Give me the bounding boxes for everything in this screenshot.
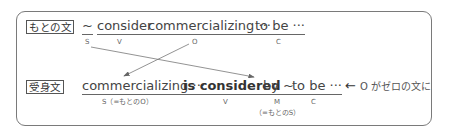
label-v: V bbox=[117, 38, 122, 46]
passive-sentence-tag: 受身文 bbox=[26, 80, 64, 94]
passive-word-by: by ~ bbox=[263, 78, 294, 95]
word-complement: to be ··· bbox=[255, 18, 305, 35]
o-to-s-arrow bbox=[124, 44, 189, 76]
word-object: commercializing ··· bbox=[148, 18, 271, 35]
left-arrow-icon: ← bbox=[345, 80, 356, 92]
label-s: S bbox=[85, 38, 89, 46]
original-sentence-tag: もとの文 bbox=[26, 20, 74, 34]
label-o: O bbox=[192, 38, 198, 46]
word-verb: consider bbox=[97, 18, 152, 35]
passive-word-complement: to be ··· bbox=[292, 78, 342, 95]
s-to-m-arrow bbox=[91, 47, 254, 77]
passive-label-m-note: （=もとのS） bbox=[255, 109, 300, 117]
passive-label-v: V bbox=[223, 98, 228, 106]
passive-label-m: M bbox=[274, 98, 280, 106]
word-subject: ~ bbox=[82, 18, 93, 35]
passive-label-s: S（=もとのO） bbox=[102, 98, 153, 106]
passive-note: O がゼロの文に bbox=[360, 81, 431, 93]
label-c: C bbox=[276, 38, 281, 46]
passive-label-c: C bbox=[311, 98, 316, 106]
